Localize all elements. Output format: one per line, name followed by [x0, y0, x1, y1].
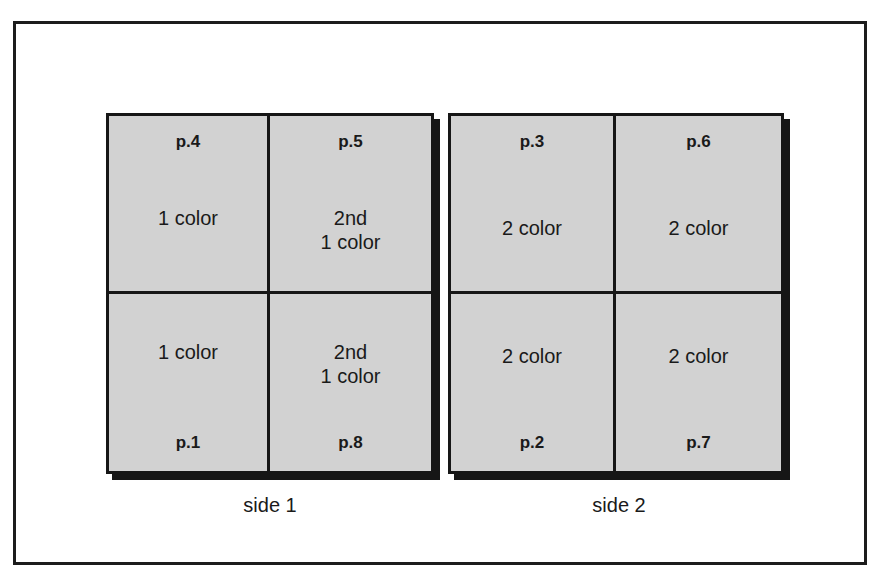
side-1-label: side 1	[190, 494, 350, 517]
sheet-side-2: p.3 2 color p.6 2 color 2 color p.2 2 co…	[448, 113, 784, 474]
color-label: 2 color	[451, 216, 613, 240]
sheet-side-1: p.4 1 color p.5 2nd 1 color 1 color p.1 …	[106, 113, 434, 474]
color-label: 2 color	[616, 344, 781, 368]
page-number: p.8	[270, 433, 431, 453]
color-label: 2nd 1 color	[270, 206, 431, 254]
panel-p4: p.4 1 color	[109, 116, 270, 294]
page-number: p.1	[109, 433, 267, 453]
panel-p3: p.3 2 color	[451, 116, 616, 294]
page-number: p.4	[109, 132, 267, 152]
color-label: 1 color	[109, 340, 267, 364]
page-number: p.6	[616, 132, 781, 152]
color-label: 2 color	[616, 216, 781, 240]
side-2-label: side 2	[539, 494, 699, 517]
page-number: p.2	[451, 433, 613, 453]
page-number: p.7	[616, 433, 781, 453]
panel-p8: 2nd 1 color p.8	[270, 294, 431, 472]
color-label: 2nd 1 color	[270, 340, 431, 388]
panel-p1: 1 color p.1	[109, 294, 270, 472]
page-number: p.5	[270, 132, 431, 152]
panel-p2: 2 color p.2	[451, 294, 616, 472]
color-label: 1 color	[109, 206, 267, 230]
page-number: p.3	[451, 132, 613, 152]
panel-p6: p.6 2 color	[616, 116, 781, 294]
color-label: 2 color	[451, 344, 613, 368]
panel-p7: 2 color p.7	[616, 294, 781, 472]
panel-p5: p.5 2nd 1 color	[270, 116, 431, 294]
